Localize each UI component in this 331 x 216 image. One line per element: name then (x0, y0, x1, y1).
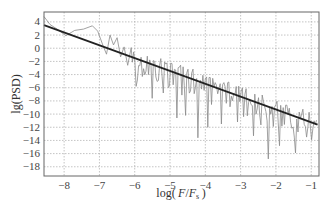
y-tick-label: −10 (23, 108, 41, 120)
y-tick-label: −6 (28, 81, 40, 93)
y-tick-label: −2 (28, 55, 40, 67)
y-tick-label: −4 (28, 68, 40, 80)
y-axis-ticks: 420−2−4−6−8−10−12−14−16−18 (23, 15, 41, 172)
x-tick-label: −1 (305, 179, 317, 191)
x-label-pre: log( (156, 186, 178, 200)
x-tick-label: −2 (270, 179, 282, 191)
x-axis-label: log( F/Fs ) (156, 186, 205, 201)
x-tick-label: −3 (235, 179, 247, 191)
fit-line (44, 25, 318, 124)
x-label-post: ) (199, 186, 205, 200)
y-axis-label: lg(PSD) (9, 74, 23, 113)
x-tick-label: −6 (129, 179, 141, 191)
y-tick-label: −12 (23, 121, 40, 133)
y-tick-label: −16 (23, 147, 41, 159)
psd-chart: 420−2−4−6−8−10−12−14−16−18 −8−7−6−5−4−3−… (0, 0, 331, 216)
y-tick-label: 2 (35, 29, 41, 41)
y-tick-label: −18 (23, 160, 41, 172)
x-tick-label: −7 (94, 179, 106, 191)
y-tick-label: 0 (35, 42, 41, 54)
linear-fit-line (44, 25, 318, 124)
y-tick-label: −8 (28, 94, 40, 106)
y-tick-label: −14 (23, 134, 41, 146)
x-tick-label: −8 (58, 179, 70, 191)
y-tick-label: 4 (35, 15, 41, 27)
